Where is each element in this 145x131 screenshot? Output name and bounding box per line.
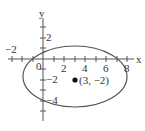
ellipse-curve	[23, 46, 127, 107]
y-tick-label-neg2: −2	[46, 73, 58, 85]
x-tick-label-6: 6	[103, 62, 109, 74]
x-tick-label-neg2: −2	[5, 43, 17, 55]
coordinate-plane: y x 2 −2 −4 −2 0 2 4 6 8 (3, −2)	[0, 0, 145, 131]
center-point-label: (3, −2)	[79, 74, 109, 87]
y-axis-label: y	[39, 7, 45, 19]
x-tick-label-4: 4	[82, 62, 88, 74]
x-tick-label-2: 2	[61, 62, 67, 74]
y-tick-label-neg4: −4	[46, 94, 58, 106]
center-point	[72, 77, 77, 82]
x-tick-label-8: 8	[124, 62, 130, 74]
x-axis-label: x	[136, 53, 142, 65]
x-tick-label-0: 0	[36, 60, 42, 72]
y-tick-label-2: 2	[46, 31, 52, 43]
